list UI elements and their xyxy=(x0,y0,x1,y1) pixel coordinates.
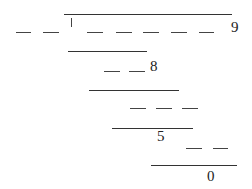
solid-line-2 xyxy=(68,51,147,52)
dash-segment xyxy=(171,32,187,33)
dash-segment xyxy=(16,32,31,33)
dash-segment xyxy=(116,32,132,33)
label-8: 8 xyxy=(150,59,158,74)
label-0: 0 xyxy=(207,169,215,184)
dash-segment xyxy=(130,108,146,109)
dash-segment xyxy=(129,71,145,72)
dash-segment xyxy=(186,148,202,149)
solid-line-4 xyxy=(112,128,193,129)
dash-segment xyxy=(104,71,120,72)
dash-segment xyxy=(156,108,172,109)
solid-line-5 xyxy=(151,165,237,166)
dash-segment xyxy=(182,108,198,109)
dash-segment xyxy=(43,32,59,33)
solid-line-3 xyxy=(89,90,179,91)
solid-line-1 xyxy=(64,14,232,15)
dash-segment xyxy=(199,32,214,33)
label-5: 5 xyxy=(157,129,165,144)
tick-mark xyxy=(71,18,72,27)
dash-segment xyxy=(213,148,228,149)
dash-segment xyxy=(143,32,159,33)
line-diagram: 9 8 5 0 xyxy=(0,0,252,189)
label-9: 9 xyxy=(231,20,239,35)
dash-segment xyxy=(87,32,103,33)
